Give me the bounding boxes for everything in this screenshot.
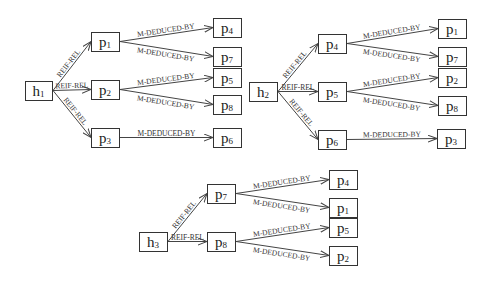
edge-m-deduced-by: M-DEDUCED-BY xyxy=(347,130,437,140)
edge-m-deduced-by: M-DEDUCED-BY xyxy=(236,173,329,193)
edge-m-deduced-by: M-DEDUCED-BY xyxy=(347,44,438,65)
edge-label: REIF-REL xyxy=(170,199,198,231)
edge-m-deduced-by: M-DEDUCED-BY xyxy=(347,92,438,113)
node-p1: p1 xyxy=(92,33,120,52)
edge-m-deduced-by: M-DEDUCED-BY xyxy=(236,242,329,263)
edge-reif-rel: REIF-REL xyxy=(53,81,91,91)
edge-label: M-DEDUCED-BY xyxy=(136,93,195,111)
node-p5: p5 xyxy=(330,219,358,238)
edge-m-deduced-by: M-DEDUCED-BY xyxy=(347,71,438,91)
edge-label: REIF-REL xyxy=(282,83,315,92)
edge-label: M-DEDUCED-BY xyxy=(138,129,196,138)
edge-reif-rel: REIF-REL xyxy=(53,91,91,138)
node-p1: p1 xyxy=(330,199,358,218)
node-p6: p6 xyxy=(319,131,347,150)
node-p8: p8 xyxy=(208,233,236,252)
edge-reif-rel: REIF-REL xyxy=(168,233,207,242)
edge-m-deduced-by: M-DEDUCED-BY xyxy=(236,194,329,215)
edge-label: M-DEDUCED-BY xyxy=(253,173,312,191)
edge-label: M-DEDUCED-BY xyxy=(363,71,422,89)
node-p2: p2 xyxy=(330,247,358,266)
edge-label: REIF-REL xyxy=(281,49,309,80)
node-p7: p7 xyxy=(214,48,242,67)
edge-label: REIF-REL xyxy=(55,47,83,79)
edge-m-deduced-by: M-DEDUCED-BY xyxy=(120,129,213,138)
node-p4: p4 xyxy=(319,35,347,54)
edge-m-deduced-by: M-DEDUCED-BY xyxy=(236,221,329,241)
node-p8: p8 xyxy=(439,97,467,116)
node-h3: h3 xyxy=(140,233,168,252)
edge-m-deduced-by: M-DEDUCED-BY xyxy=(347,22,438,43)
edge-label: M-DEDUCED-BY xyxy=(253,221,312,239)
edge-label: M-DEDUCED-BY xyxy=(136,45,195,63)
edge-m-deduced-by: M-DEDUCED-BY xyxy=(120,71,213,90)
node-p4: p4 xyxy=(214,19,242,38)
edge-label: REIF-REL xyxy=(171,233,204,242)
node-p7: p7 xyxy=(208,185,236,204)
edge-label: REIF-REL xyxy=(62,96,90,128)
edge-arrow xyxy=(53,91,91,138)
edge-label: M-DEDUCED-BY xyxy=(252,197,311,215)
node-p5: p5 xyxy=(319,83,347,102)
reification-diagram: REIF-RELM-DEDUCED-BYM-DEDUCED-BYREIF-REL… xyxy=(0,0,484,281)
edge-label: M-DEDUCED-BY xyxy=(137,71,196,87)
edge-label: REIF-REL xyxy=(55,81,89,91)
edge-label: M-DEDUCED-BY xyxy=(362,95,421,113)
edge-reif-rel: REIF-REL xyxy=(278,92,318,140)
edge-label: M-DEDUCED-BY xyxy=(137,21,196,39)
edge-label: M-DEDUCED-BY xyxy=(252,245,311,263)
node-p7: p7 xyxy=(439,48,467,67)
edge-label: M-DEDUCED-BY xyxy=(363,130,422,140)
node-p1: p1 xyxy=(439,20,467,39)
node-p6: p6 xyxy=(214,129,242,148)
node-p5: p5 xyxy=(214,69,242,88)
node-h2: h2 xyxy=(250,83,278,102)
node-p8: p8 xyxy=(214,96,242,115)
node-p2: p2 xyxy=(439,69,467,88)
edge-label: REIF-REL xyxy=(287,97,315,128)
edge-m-deduced-by: M-DEDUCED-BY xyxy=(120,21,213,41)
node-h1: h1 xyxy=(26,82,53,101)
edge-m-deduced-by: M-DEDUCED-BY xyxy=(120,90,213,112)
edge-arrow xyxy=(278,92,318,140)
node-p3: p3 xyxy=(92,129,120,148)
edge-reif-rel: REIF-REL xyxy=(278,83,318,92)
edge-m-deduced-by: M-DEDUCED-BY xyxy=(120,42,213,64)
node-p2: p2 xyxy=(92,81,120,100)
node-p4: p4 xyxy=(330,171,358,190)
edge-label: M-DEDUCED-BY xyxy=(362,22,421,40)
node-p3: p3 xyxy=(438,130,466,149)
